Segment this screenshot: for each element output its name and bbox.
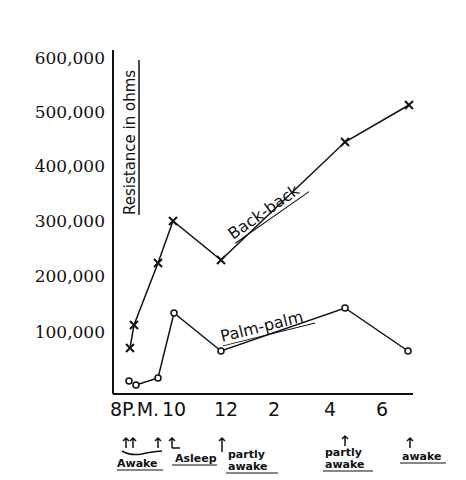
ann-asleep: Asleep bbox=[175, 452, 217, 465]
x-tick: 6 bbox=[376, 398, 388, 420]
x-tick: 4 bbox=[324, 398, 336, 420]
y-tick: 500,000 bbox=[35, 102, 105, 122]
ann-awake: Awake bbox=[117, 457, 158, 470]
label-back-back: Back-back bbox=[224, 180, 303, 243]
x-tick: 2 bbox=[268, 398, 280, 420]
x-tick: 12 bbox=[214, 398, 238, 420]
x-tick: 10 bbox=[162, 398, 186, 420]
y-tick: 400,000 bbox=[35, 156, 105, 176]
x-tick: 8P.M. bbox=[110, 398, 159, 420]
y-axis-label-group: Resistance in ohms bbox=[121, 60, 139, 215]
label-palm-palm: Palm-palm bbox=[218, 307, 305, 346]
x-tick-labels: 8P.M. 10 12 2 4 6 bbox=[110, 398, 388, 420]
y-axis-label: Resistance in ohms bbox=[121, 70, 139, 215]
ann-awake-2: awake bbox=[402, 450, 442, 463]
y-tick: 100,000 bbox=[35, 322, 105, 342]
chart: 600,000 500,000 400,000 300,000 200,000 … bbox=[0, 0, 466, 480]
label-back-back-group: Back-back bbox=[224, 176, 309, 243]
y-tick: 600,000 bbox=[35, 48, 105, 68]
annotation-labels: Awake Asleep partly awake partly awake a… bbox=[117, 446, 446, 473]
annotations bbox=[122, 436, 413, 455]
ann-partly-awake-2b: awake bbox=[325, 458, 365, 471]
y-tick-labels: 600,000 500,000 400,000 300,000 200,000 … bbox=[35, 48, 105, 342]
ann-partly-awake-1b: awake bbox=[228, 460, 268, 473]
y-tick: 300,000 bbox=[35, 211, 105, 231]
label-palm-palm-group: Palm-palm bbox=[218, 304, 315, 345]
y-tick: 200,000 bbox=[35, 266, 105, 286]
